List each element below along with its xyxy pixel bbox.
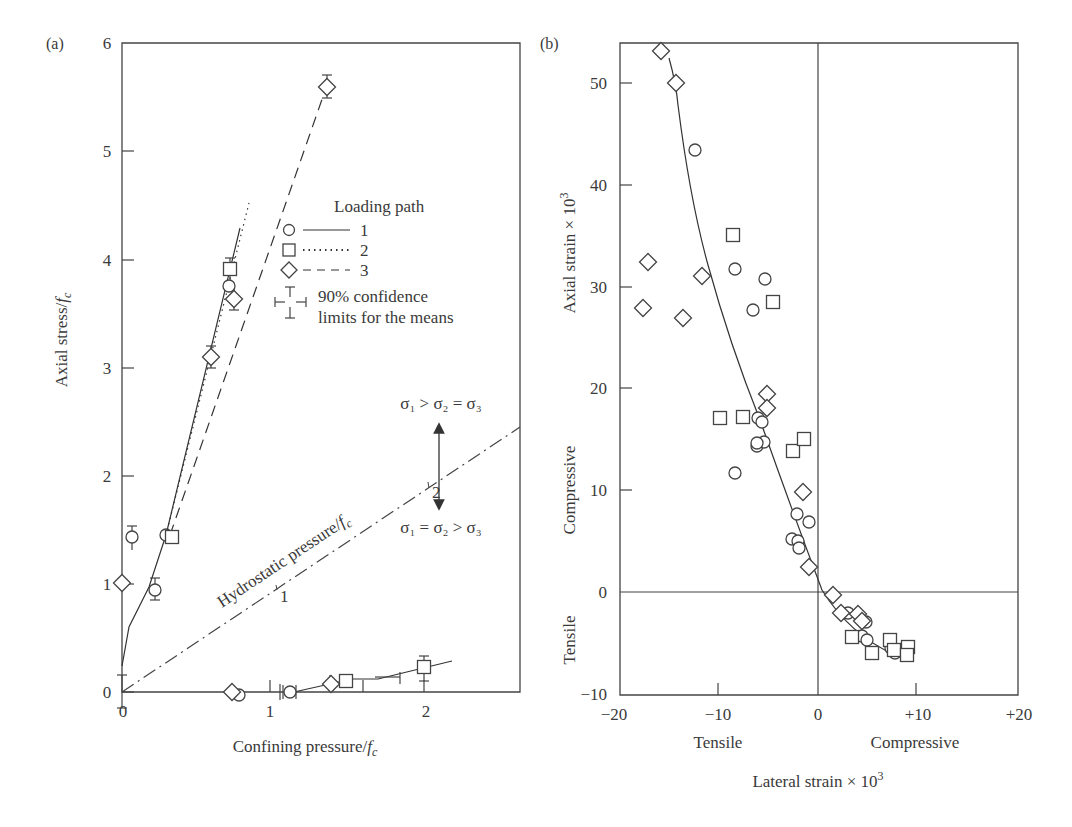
path-3-line <box>170 85 327 535</box>
svg-text:3: 3 <box>103 359 112 378</box>
x-region-compressive: Compressive <box>871 733 960 752</box>
svg-text:0: 0 <box>599 583 608 602</box>
svg-text:−10: −10 <box>705 705 732 724</box>
stress-state-upper: σ₁ > σ₂ = σ₃ <box>400 394 482 413</box>
slope-tick <box>428 482 429 488</box>
svg-text:2: 2 <box>103 467 112 486</box>
legend-item-3: 3 <box>281 261 369 280</box>
panel-a-y-tick-labels: 0 1 2 3 4 5 6 <box>103 34 112 702</box>
svg-text:50: 50 <box>590 74 607 93</box>
svg-text:6: 6 <box>103 34 112 53</box>
legend-confidence-line1: 90% confidence <box>318 287 428 306</box>
slope-run-label: 1 <box>280 587 289 606</box>
svg-text:+10: +10 <box>905 705 932 724</box>
svg-text:5: 5 <box>103 142 112 161</box>
legend-item-1: 1 <box>284 221 369 240</box>
panel-b-x-tick-labels: −20 −10 0 +10 +20 <box>601 705 1033 724</box>
legend-item-2: 2 <box>283 241 369 260</box>
path-3-markers-b <box>635 43 871 630</box>
svg-text:−20: −20 <box>601 705 628 724</box>
panel-b-x-axis-title: Lateral strain × 103 <box>752 769 883 791</box>
svg-text:0: 0 <box>103 683 112 702</box>
panel-a-y-axis-title: Axial stress/fc <box>52 292 74 387</box>
svg-text:+20: +20 <box>1006 705 1033 724</box>
hydrostatic-pressure-line <box>122 427 520 692</box>
legend-confidence-line2: limits for the means <box>318 308 454 327</box>
svg-text:30: 30 <box>590 278 607 297</box>
stress-state-lower: σ₁ = σ₂ > σ₃ <box>400 518 482 537</box>
panel-b: (b) −10 0 10 20 30 40 50 −20 − <box>540 35 1032 791</box>
svg-text:1: 1 <box>103 575 112 594</box>
path-1-markers <box>126 280 296 701</box>
panel-b-label: (b) <box>540 35 559 53</box>
diamond-marker-icon <box>281 262 297 278</box>
svg-text:0: 0 <box>119 702 128 721</box>
panel-a-y-ticks <box>122 151 134 692</box>
svg-text:0: 0 <box>814 705 823 724</box>
svg-text:20: 20 <box>590 379 607 398</box>
confidence-limit-icon <box>275 287 306 318</box>
svg-text:−10: −10 <box>580 685 607 704</box>
legend-title: Loading path <box>334 197 425 216</box>
path-2-markers-b <box>714 229 915 662</box>
circle-marker-icon <box>284 225 295 236</box>
svg-text:2: 2 <box>422 702 431 721</box>
fitted-curve <box>669 58 895 655</box>
legend: Loading path 1 2 3 90% c <box>275 197 454 327</box>
panel-b-y-tick-labels: −10 0 10 20 30 40 50 <box>580 74 607 704</box>
panel-b-x-ticks <box>718 683 916 695</box>
panel-a-frame <box>122 43 520 692</box>
panel-a-x-tick-labels: 0 1 2 <box>119 702 431 721</box>
figure-canvas: (a) 0 1 2 3 4 5 6 0 1 2 <box>0 0 1072 827</box>
svg-text:4: 4 <box>103 251 112 270</box>
y-region-compressive: Compressive <box>560 446 579 535</box>
panel-b-y-axis-title: Axial strain × 103 <box>557 193 579 314</box>
panel-a-x-axis-title: Confining pressure/fc <box>233 737 378 759</box>
panel-b-y-ticks <box>620 83 632 490</box>
svg-text:2: 2 <box>360 241 369 260</box>
svg-text:1: 1 <box>360 221 369 240</box>
svg-text:10: 10 <box>590 481 607 500</box>
confidence-bars <box>117 75 429 708</box>
panel-b-frame <box>620 43 1018 695</box>
x-region-tensile: Tensile <box>694 733 743 752</box>
y-region-tensile: Tensile <box>560 616 579 665</box>
path-1-markers-b <box>689 144 901 659</box>
svg-text:40: 40 <box>590 176 607 195</box>
svg-text:1: 1 <box>266 702 275 721</box>
svg-text:3: 3 <box>360 261 369 280</box>
panel-a: (a) 0 1 2 3 4 5 6 0 1 2 <box>46 34 520 759</box>
panel-a-label: (a) <box>46 35 64 53</box>
square-marker-icon <box>283 244 295 256</box>
